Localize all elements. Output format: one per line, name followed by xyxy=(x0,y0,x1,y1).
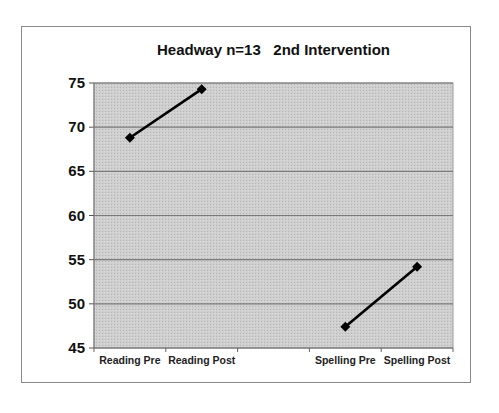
x-axis: Reading PreReading PostSpelling PreSpell… xyxy=(94,348,453,366)
x-tick-label: Reading Pre xyxy=(99,354,160,366)
y-tick-label: 65 xyxy=(68,162,85,179)
y-tick-label: 60 xyxy=(68,207,85,224)
x-tick-label: Spelling Post xyxy=(384,354,451,366)
x-tick-label: Reading Post xyxy=(168,354,236,366)
y-tick-label: 50 xyxy=(68,295,85,312)
y-tick-label: 55 xyxy=(68,251,85,268)
y-tick-label: 75 xyxy=(68,74,85,91)
y-axis: 75706560555045 xyxy=(68,74,94,356)
chart-plot: 75706560555045 Reading PreReading PostSp… xyxy=(0,0,499,413)
y-tick-label: 45 xyxy=(68,339,85,356)
y-tick-label: 70 xyxy=(68,118,85,135)
x-tick-label: Spelling Pre xyxy=(315,354,376,366)
